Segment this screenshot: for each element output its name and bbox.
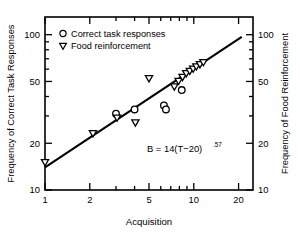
- acquisition-chart: 1251020101020205050100100 Correct task r…: [0, 0, 300, 243]
- y-tick-label: 10: [30, 184, 40, 195]
- x-axis-label: Acquisition: [126, 216, 172, 227]
- y2-tick-label: 100: [258, 29, 274, 40]
- legend: Correct task responses Food reinforcemen…: [60, 29, 166, 51]
- legend-marker-circle: [60, 30, 66, 36]
- y2-axis-label: Frequency of Food Reinforcement: [280, 33, 290, 174]
- data-point-triangle: [145, 76, 152, 82]
- data-point-triangle: [171, 84, 178, 90]
- data-point-circle: [131, 106, 138, 113]
- y-tick-label: 50: [30, 76, 40, 87]
- legend-label-food-reinforcement: Food reinforcement: [71, 41, 151, 51]
- legend-label-correct-task-responses: Correct task responses: [71, 29, 166, 39]
- x-tick-label: 2: [87, 194, 92, 205]
- y-tick-label: 20: [30, 138, 40, 149]
- data-point-triangle: [132, 120, 139, 126]
- y-tick-label: 100: [24, 29, 40, 40]
- x-tick-label: 20: [233, 194, 243, 205]
- axis-tick-labels: 1251020101020205050100100: [24, 29, 273, 205]
- equation-exponent: .57: [213, 141, 222, 148]
- x-tick-label: 1: [42, 194, 47, 205]
- y2-tick-label: 20: [258, 138, 268, 149]
- equation-base: B = 14(T−20): [147, 143, 202, 154]
- x-tick-label: 5: [146, 194, 151, 205]
- y2-tick-label: 10: [258, 184, 268, 195]
- y2-tick-label: 50: [258, 76, 268, 87]
- data-point-circle: [178, 87, 185, 94]
- data-point-circle: [163, 106, 170, 113]
- annotation-equation: B = 14(T−20) .57: [147, 141, 222, 154]
- y-axis-label: Frequency of Correct Task Responses: [6, 24, 16, 182]
- legend-marker-triangle-down: [60, 43, 67, 49]
- figure: 1251020101020205050100100 Correct task r…: [0, 0, 300, 243]
- x-tick-label: 10: [189, 194, 199, 205]
